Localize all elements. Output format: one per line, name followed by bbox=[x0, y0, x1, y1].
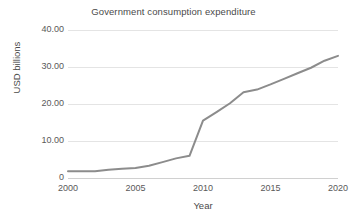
chart-title: Government consumption expenditure bbox=[0, 6, 347, 17]
x-axis-tick-label: 2005 bbox=[114, 183, 158, 193]
gridline bbox=[68, 178, 338, 179]
x-axis-tick-label: 2020 bbox=[316, 183, 353, 193]
series-line-government-consumption-expenditure bbox=[68, 56, 338, 171]
y-axis-tick-label: 20.00 bbox=[18, 98, 64, 108]
y-axis-tick-label: 10.00 bbox=[18, 135, 64, 145]
plot-area bbox=[68, 30, 338, 178]
y-axis-tick-label: 40.00 bbox=[18, 24, 64, 34]
x-axis-tick-label: 2015 bbox=[249, 183, 293, 193]
x-axis-tick-label: 2000 bbox=[46, 183, 90, 193]
series-line-chart bbox=[68, 30, 338, 178]
y-axis-tick-label: 30.00 bbox=[18, 61, 64, 71]
x-axis-tick-label: 2010 bbox=[181, 183, 225, 193]
y-axis-tick-label: 0 bbox=[18, 172, 64, 182]
x-axis-title: Year bbox=[68, 200, 338, 211]
